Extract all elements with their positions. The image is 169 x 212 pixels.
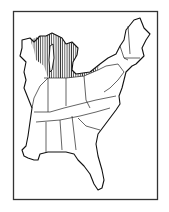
map-figure [0,0,169,212]
